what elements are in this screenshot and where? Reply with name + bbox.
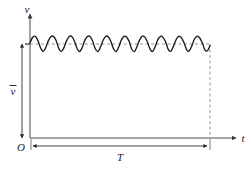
y-axis-label: v — [25, 3, 30, 15]
period-label: T — [117, 151, 124, 163]
origin-label: O — [17, 141, 25, 153]
ripple-voltage-figure: v t O v T — [0, 0, 251, 170]
figure-canvas: v t O v T — [0, 0, 251, 170]
mean-value-label: v — [11, 85, 16, 97]
ripple-voltage-curve — [30, 36, 210, 52]
x-axis-label: t — [241, 132, 245, 144]
